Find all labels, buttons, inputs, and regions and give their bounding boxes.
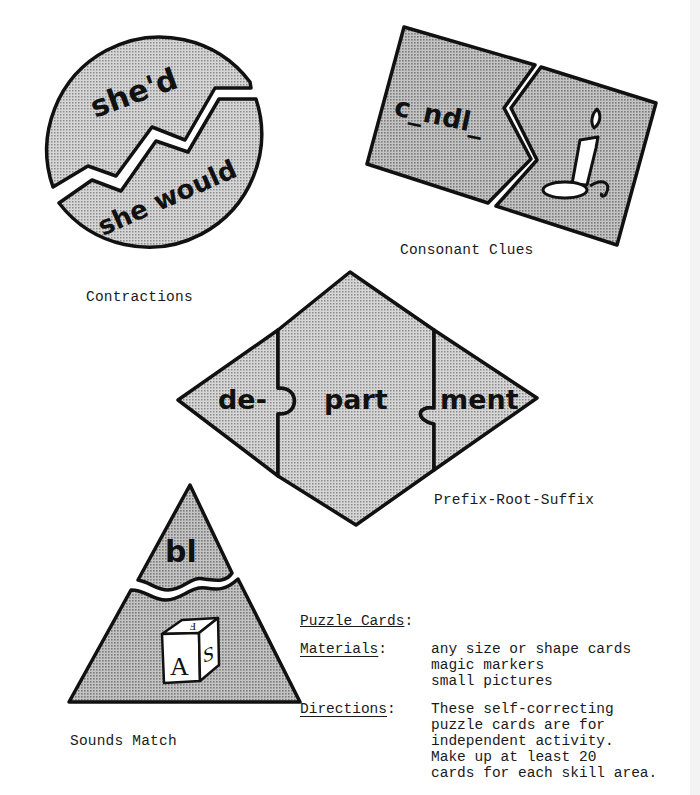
materials-item: small pictures: [431, 673, 631, 689]
caption-sounds-match: Sounds Match: [70, 733, 177, 749]
caption-contractions: Contractions: [86, 289, 193, 305]
directions-line: Make up at least 20: [431, 749, 657, 765]
sounds-match-card: bl A S F: [69, 485, 300, 702]
sounds-letters: bl: [165, 534, 197, 569]
materials-item: any size or shape cards: [431, 641, 631, 657]
directions-row: Directions: These self-correcting puzzle…: [300, 701, 700, 781]
directions-text: These self-correcting puzzle cards are f…: [431, 701, 657, 781]
directions-line: puzzle cards are for: [431, 717, 657, 733]
svg-text:F: F: [190, 621, 196, 633]
caption-prefix-root-suffix: Prefix-Root-Suffix: [434, 492, 594, 508]
panel-title: Puzzle Cards:: [300, 613, 413, 629]
contractions-card: she'd she would: [47, 37, 262, 247]
materials-label: Materials:: [300, 641, 431, 689]
instructions-panel: Puzzle Cards: Materials: any size or sha…: [300, 613, 700, 793]
materials-list: any size or shape cards magic markers sm…: [431, 641, 631, 689]
directions-line: cards for each skill area.: [431, 765, 657, 781]
materials-item: magic markers: [431, 657, 631, 673]
directions-line: independent activity.: [431, 733, 657, 749]
directions-label: Directions:: [300, 701, 431, 781]
suffix-word: ment: [440, 384, 519, 415]
directions-line: These self-correcting: [431, 701, 657, 717]
alphabet-block-icon: A S F: [162, 618, 219, 683]
prefix-word: de-: [218, 384, 267, 415]
title-row: Puzzle Cards:: [300, 613, 700, 629]
consonant-clues-card: c_ndl_: [367, 27, 656, 245]
materials-row: Materials: any size or shape cards magic…: [300, 641, 700, 689]
prefix-root-suffix-card: de- part ment: [178, 272, 537, 525]
scan-edge: [690, 0, 700, 795]
svg-text:A: A: [170, 652, 189, 681]
root-word: part: [324, 384, 388, 415]
caption-consonant-clues: Consonant Clues: [400, 242, 534, 258]
svg-text:S: S: [203, 642, 214, 667]
